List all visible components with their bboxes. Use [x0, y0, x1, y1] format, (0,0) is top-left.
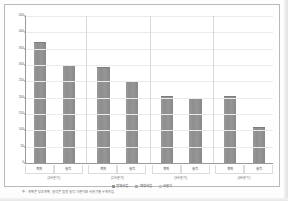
- y-axis-tick-label: 0: [22, 161, 24, 164]
- plot-area: 450400350300250200150100500: [25, 16, 273, 164]
- category-label: 실적: [117, 165, 146, 174]
- y-axis-tick-mark: [24, 114, 26, 115]
- figure-caption: 주 : 계획은 당초 계획, 실적은 집행 실적 기준이며 사분기별 누계치임.: [22, 190, 272, 194]
- category-axis-tier-labels: 계획실적계획실적계획실적계획실적: [25, 165, 273, 174]
- y-axis-tick-label: 150: [19, 112, 24, 115]
- legend-item: 사분기: [159, 185, 173, 188]
- category-axis: 계획실적계획실적계획실적계획실적 (1사분기)(2사분기)(3사분기)(4사분기…: [25, 165, 273, 183]
- bar: [126, 81, 138, 163]
- category-label: 계획: [152, 165, 181, 174]
- legend-label: 재정사업: [140, 185, 152, 188]
- category-label: 계획: [88, 165, 117, 174]
- y-axis-tick-label: 350: [19, 47, 24, 50]
- legend-label: 사분기: [163, 185, 172, 188]
- y-axis-tick-label: 250: [19, 80, 24, 83]
- page-edge-shading-right: [284, 0, 288, 201]
- y-axis-tick-mark: [24, 97, 26, 98]
- y-axis-tick-label: 300: [19, 63, 24, 66]
- page-edge-shading-bottom: [0, 198, 288, 201]
- y-axis-tick-label: 400: [19, 31, 24, 34]
- legend-swatch-icon: [135, 185, 138, 188]
- chart-panel: 450400350300250200150100500 계획실적계획실적계획실적…: [4, 4, 280, 187]
- y-axis-tick-label: 450: [19, 14, 24, 17]
- group-label: (1사분기): [25, 174, 83, 183]
- y-axis-tick-label: 100: [19, 129, 24, 132]
- group-label: (3사분기): [152, 174, 210, 183]
- category-label: 실적: [181, 165, 210, 174]
- y-axis-tick-mark: [24, 16, 26, 17]
- category-label: 실적: [54, 165, 83, 174]
- group-separator: [86, 16, 87, 163]
- category-axis-group-labels: (1사분기)(2사분기)(3사분기)(4사분기): [25, 174, 273, 183]
- group-label: (2사분기): [88, 174, 146, 183]
- group-separator: [213, 16, 214, 163]
- category-label: 실적: [244, 165, 273, 174]
- y-axis-tick-label: 50: [20, 145, 24, 148]
- y-axis-tick-mark: [24, 32, 26, 33]
- legend-swatch-icon: [112, 185, 115, 188]
- legend-item: 재정사업: [135, 185, 152, 188]
- category-label: 계획: [25, 165, 54, 174]
- group-separator: [150, 16, 151, 163]
- legend-swatch-icon: [159, 185, 162, 188]
- y-axis-tick-mark: [24, 48, 26, 49]
- y-axis-tick-mark: [24, 130, 26, 131]
- legend-label: 전체사업: [116, 185, 128, 188]
- plot-wrapper: 450400350300250200150100500 계획실적계획실적계획실적…: [5, 5, 279, 186]
- y-axis-tick-mark: [24, 81, 26, 82]
- y-axis-tick-mark: [24, 163, 26, 164]
- bar: [34, 42, 46, 163]
- group-label: (4사분기): [215, 174, 273, 183]
- y-axis-tick-label: 200: [19, 96, 24, 99]
- bar: [253, 127, 265, 163]
- category-label: 계획: [215, 165, 244, 174]
- y-axis-tick-mark: [24, 65, 26, 66]
- screenshot-root: 450400350300250200150100500 계획실적계획실적계획실적…: [0, 0, 288, 201]
- legend-item: 전체사업: [112, 185, 129, 188]
